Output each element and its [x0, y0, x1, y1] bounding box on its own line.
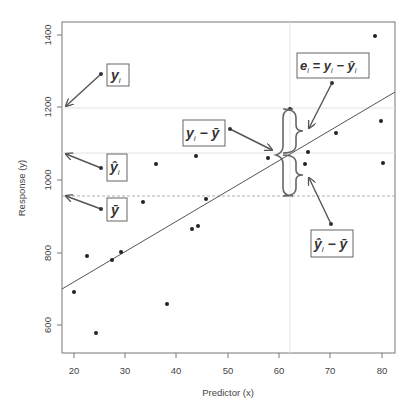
x-tick-label: 20 [69, 365, 80, 376]
x-tick-label: 60 [274, 365, 285, 376]
annotation-total-deviation: yi − ȳ [183, 120, 225, 146]
y-tick-label: 1400 [42, 24, 53, 45]
x-tick-label: 50 [223, 365, 234, 376]
annotation-ybar: ȳ [107, 198, 127, 221]
x-axis-title: Predictor (x) [202, 387, 254, 398]
annotation-explained-deviation: ŷi − ȳ [311, 230, 353, 257]
y-tick-label: 1000 [42, 169, 53, 190]
x-tick-label: 70 [325, 365, 336, 376]
x-tick-label: 30 [120, 365, 131, 376]
annotation-yhat: ŷi [107, 154, 127, 181]
annotation-yi: yi [107, 64, 129, 86]
y-tick-label: 800 [42, 245, 53, 261]
y-tick-label: 1200 [42, 96, 53, 117]
regression-decomposition-chart: 20 30 40 50 60 70 80 1400 1200 1000 800 … [0, 0, 415, 419]
x-axis [74, 353, 382, 358]
annotation-residual: ei = yi − ŷi [297, 53, 369, 78]
y-axis-title: Response (y) [16, 160, 27, 217]
svg-text:ŷi − ȳ: ŷi − ȳ [313, 236, 349, 254]
x-tick-label: 80 [377, 365, 388, 376]
x-tick-label: 40 [171, 365, 182, 376]
svg-text:yi − ȳ: yi − ȳ [185, 125, 221, 143]
svg-text:ȳ: ȳ [110, 202, 120, 218]
y-tick-label: 600 [42, 317, 53, 333]
svg-text:ei = yi − ŷi: ei = yi − ŷi [300, 58, 357, 75]
y-axis [57, 35, 62, 325]
